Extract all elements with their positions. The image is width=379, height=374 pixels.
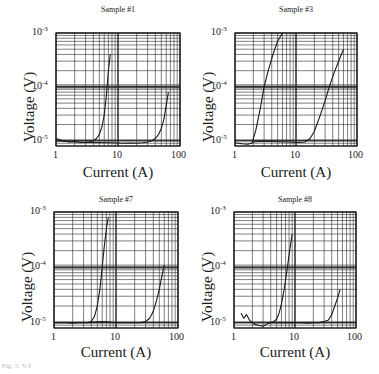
- x-tick-label: 1: [231, 331, 236, 342]
- y-tick-label: 10-3: [210, 204, 226, 216]
- figure-caption: Fig. 5. V-I: [2, 362, 31, 370]
- x-tick-label: 100: [347, 331, 362, 342]
- x-tick-label: 10: [289, 331, 299, 342]
- y-axis-label: Voltage (V): [199, 252, 216, 322]
- plot-area: [0, 0, 379, 374]
- data-curve: [241, 234, 292, 326]
- x-axis-label: Current (A): [245, 344, 345, 361]
